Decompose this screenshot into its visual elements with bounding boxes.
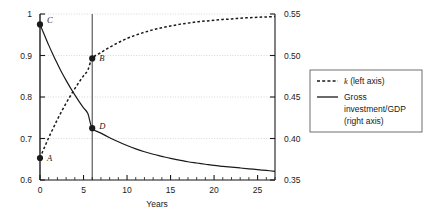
annotation-label-b: B (99, 53, 104, 63)
y-right-tick-label: 0.45 (284, 92, 301, 102)
y-left-tick-label: 0.9 (20, 51, 32, 61)
legend: k (left axis) Gross investment/GDP (righ… (310, 70, 422, 132)
annotation-point-d (89, 125, 95, 131)
chart-canvas: 05101520250.60.70.80.910.350.400.450.500… (0, 0, 438, 215)
x-tick-label: 25 (253, 185, 263, 195)
annotation-label-d: D (98, 121, 106, 131)
y-left-tick-label: 1 (27, 9, 32, 19)
legend-label-gross-line3: (right axis) (344, 116, 384, 126)
y-right-tick-label: 0.40 (284, 134, 301, 144)
annotation-point-a (37, 155, 43, 161)
y-right-tick-label: 0.35 (284, 175, 301, 185)
y-right-tick-label: 0.50 (284, 51, 301, 61)
x-axis-title: Years (146, 199, 167, 209)
legend-label-gross-line1: Gross (344, 92, 367, 102)
x-tick-label: 20 (209, 185, 219, 195)
annotation-point-c (37, 21, 43, 27)
y-left-tick-label: 0.7 (20, 134, 32, 144)
annotation-point-b (89, 55, 95, 61)
legend-label-k-rest: (left axis) (348, 76, 385, 86)
chart-figure: 05101520250.60.70.80.910.350.400.450.500… (0, 0, 438, 215)
annotation-label-a: A (46, 153, 53, 163)
y-left-tick-label: 0.8 (20, 92, 32, 102)
x-tick-label: 5 (81, 185, 86, 195)
x-tick-label: 0 (38, 185, 43, 195)
y-left-tick-label: 0.6 (20, 175, 32, 185)
annotation-label-c: C (47, 15, 53, 25)
x-tick-label: 10 (122, 185, 132, 195)
legend-label-k: k (left axis) (344, 76, 385, 86)
legend-label-gross-line2: investment/GDP (344, 104, 406, 114)
y-right-tick-label: 0.55 (284, 9, 301, 19)
x-tick-label: 15 (166, 185, 176, 195)
